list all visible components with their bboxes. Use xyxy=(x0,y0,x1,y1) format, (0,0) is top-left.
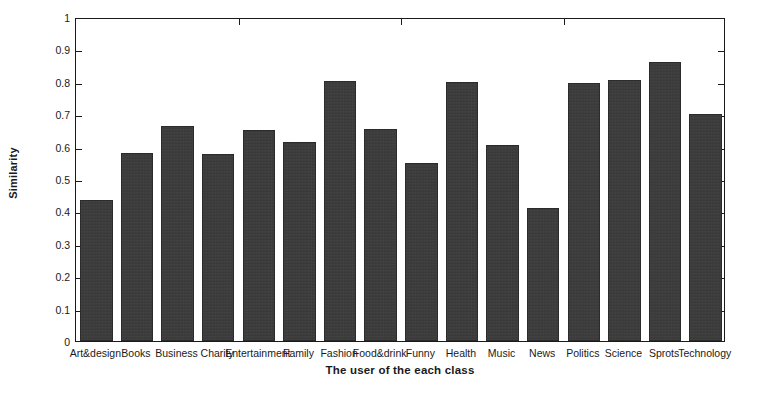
bar xyxy=(243,130,276,341)
y-axis-tick-label: 0.9 xyxy=(28,45,70,56)
y-axis-tick xyxy=(76,181,82,182)
y-axis-tick-label: 0.4 xyxy=(28,207,70,218)
x-axis-tick-top xyxy=(564,19,565,25)
y-axis-tick-label: 0.2 xyxy=(28,272,70,283)
y-axis-title: Similarity xyxy=(6,0,20,345)
y-axis-tick-label: 0.3 xyxy=(28,240,70,251)
x-axis-tick-top xyxy=(401,19,402,25)
y-axis-tick-right xyxy=(718,51,724,52)
x-axis-tick-labels: Art&designBooksBusinessCharityEntertainm… xyxy=(75,346,725,362)
bar xyxy=(161,126,194,341)
x-axis-tick-label: News xyxy=(529,346,555,360)
plot-area xyxy=(75,18,725,342)
bar xyxy=(324,81,357,341)
x-axis-tick-label: Family xyxy=(283,346,314,360)
bar xyxy=(364,129,397,341)
y-axis-tick-label: 0.7 xyxy=(28,110,70,121)
bar xyxy=(405,163,438,341)
x-axis-tick-label: Science xyxy=(605,346,642,360)
y-axis-tick-label: 0.5 xyxy=(28,175,70,186)
y-axis-tick-label: 0.6 xyxy=(28,142,70,153)
bar xyxy=(121,153,154,341)
x-axis-title: The user of the each class xyxy=(75,364,725,376)
x-axis-tick-label: Music xyxy=(488,346,515,360)
bar xyxy=(649,62,682,341)
y-axis-tick-label: 0.8 xyxy=(28,78,70,89)
bar-chart-figure: Similarity 00.10.20.30.40.50.60.70.80.91… xyxy=(0,0,762,397)
bar xyxy=(486,145,519,341)
y-axis-tick xyxy=(76,51,82,52)
y-axis-tick-right xyxy=(718,84,724,85)
bar xyxy=(202,154,235,341)
bar xyxy=(283,142,316,341)
y-axis-title-text: Similarity xyxy=(7,147,19,199)
bar xyxy=(608,80,641,341)
x-axis-tick-label: Politics xyxy=(566,346,599,360)
bar xyxy=(689,114,722,341)
y-axis-tick-label: 0.1 xyxy=(28,304,70,315)
y-axis-tick xyxy=(76,149,82,150)
bar xyxy=(446,82,479,341)
x-axis-tick-label: Art&design xyxy=(70,346,121,360)
x-axis-tick-label: Business xyxy=(155,346,198,360)
x-axis-tick-label: Technology xyxy=(678,346,731,360)
x-axis-tick-label: Funny xyxy=(406,346,435,360)
y-axis-tick xyxy=(76,116,82,117)
y-axis-tick-label: 1 xyxy=(28,13,70,24)
x-axis-tick-label: Entertainment xyxy=(225,346,290,360)
bar xyxy=(527,208,560,341)
x-axis-tick-label: Books xyxy=(121,346,150,360)
y-axis-tick-label: 0 xyxy=(28,337,70,348)
bar xyxy=(568,83,601,341)
bar xyxy=(80,200,113,341)
x-axis-tick-top xyxy=(239,19,240,25)
x-axis-tick-label: Health xyxy=(446,346,476,360)
y-axis-tick xyxy=(76,84,82,85)
x-axis-tick-label: Food&drink xyxy=(353,346,407,360)
x-axis-tick-label: Sprots xyxy=(649,346,679,360)
